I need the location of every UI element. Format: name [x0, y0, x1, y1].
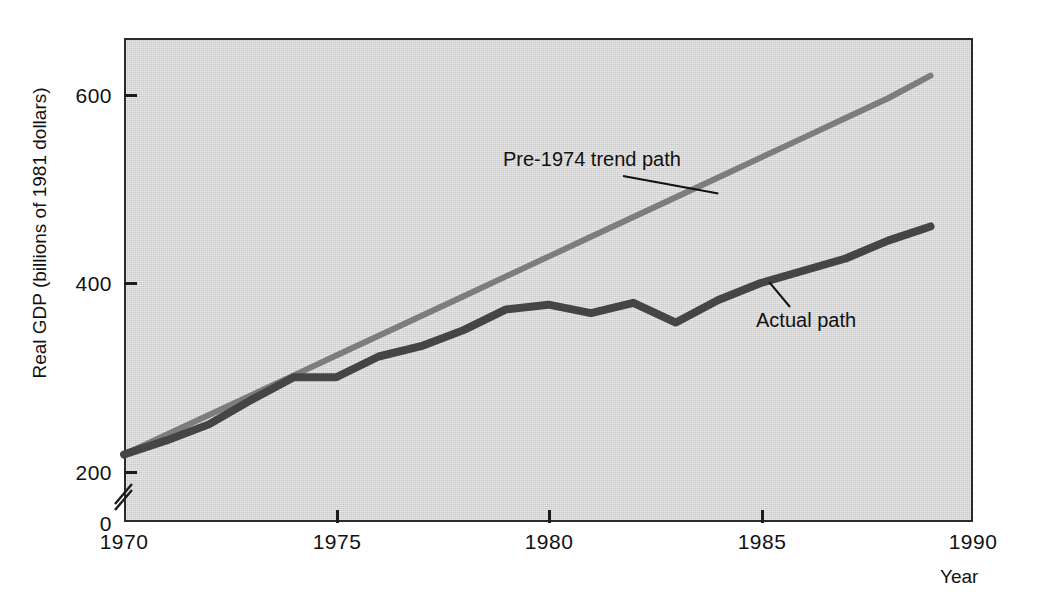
chart-series-layer — [0, 0, 1042, 597]
real-gdp-chart-figure: 600 400 200 0 1970 1975 1980 1985 1990 R… — [0, 0, 1042, 597]
actual-path-annotation-label: Actual path — [756, 309, 856, 332]
trend-path-annotation-label: Pre-1974 trend path — [503, 148, 681, 171]
series-line-actual-path — [124, 226, 931, 454]
actual-annotation-leader-line — [769, 282, 790, 307]
